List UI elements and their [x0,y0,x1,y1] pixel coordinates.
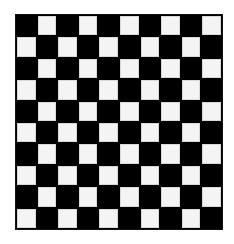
light-square [17,37,36,56]
light-square [79,59,98,78]
dark-square [201,36,222,57]
light-square [38,187,57,206]
light-square [202,102,221,121]
light-square [38,59,57,78]
light-square [202,59,221,78]
light-square [120,144,139,163]
dark-square [16,101,37,122]
dark-square [37,165,58,186]
dark-square [160,208,181,229]
light-square [202,144,221,163]
dark-square [181,58,202,79]
dark-square [37,208,58,229]
light-square [17,166,36,185]
light-square [38,16,57,35]
light-square [58,80,77,99]
light-square [99,209,118,228]
light-square [161,16,180,35]
dark-square [98,58,119,79]
dark-square [201,208,222,229]
dark-square [16,15,37,36]
dark-square [160,36,181,57]
dark-square [140,58,161,79]
dark-square [57,101,78,122]
light-square [161,187,180,206]
dark-square [181,186,202,207]
light-square [182,166,201,185]
dark-square [119,122,140,143]
dark-square [119,36,140,57]
light-square [120,187,139,206]
light-square [161,144,180,163]
light-square [202,16,221,35]
dark-square [160,79,181,100]
dark-square [140,15,161,36]
light-square [120,16,139,35]
dark-square [57,186,78,207]
light-square [17,80,36,99]
dark-square [140,143,161,164]
dark-square [201,122,222,143]
light-square [58,123,77,142]
light-square [99,37,118,56]
dark-square [78,79,99,100]
dark-square [78,208,99,229]
light-square [141,166,160,185]
light-square [38,102,57,121]
light-square [99,123,118,142]
dark-square [37,122,58,143]
dark-square [160,165,181,186]
dark-square [78,36,99,57]
dark-square [98,101,119,122]
light-square [79,16,98,35]
light-square [79,144,98,163]
light-square [58,209,77,228]
dark-square [98,186,119,207]
light-square [161,59,180,78]
light-square [182,123,201,142]
dark-square [98,15,119,36]
light-square [182,37,201,56]
light-square [17,209,36,228]
light-square [79,187,98,206]
light-square [79,102,98,121]
dark-square [78,122,99,143]
dark-square [16,143,37,164]
checkerboard [15,14,223,230]
dark-square [37,36,58,57]
dark-square [57,58,78,79]
light-square [120,59,139,78]
dark-square [201,165,222,186]
light-square [141,209,160,228]
light-square [161,102,180,121]
dark-square [181,15,202,36]
light-square [182,80,201,99]
dark-square [140,101,161,122]
light-square [202,187,221,206]
dark-square [37,79,58,100]
light-square [99,80,118,99]
dark-square [57,143,78,164]
dark-square [201,79,222,100]
light-square [120,102,139,121]
dark-square [57,15,78,36]
light-square [141,37,160,56]
light-square [182,209,201,228]
light-square [141,80,160,99]
dark-square [16,186,37,207]
light-square [38,144,57,163]
dark-square [119,165,140,186]
dark-square [181,101,202,122]
dark-square [160,122,181,143]
light-square [141,123,160,142]
light-square [17,123,36,142]
light-square [58,37,77,56]
dark-square [181,143,202,164]
light-square [58,166,77,185]
dark-square [119,208,140,229]
light-square [99,166,118,185]
dark-square [78,165,99,186]
dark-square [119,79,140,100]
dark-square [140,186,161,207]
dark-square [98,143,119,164]
